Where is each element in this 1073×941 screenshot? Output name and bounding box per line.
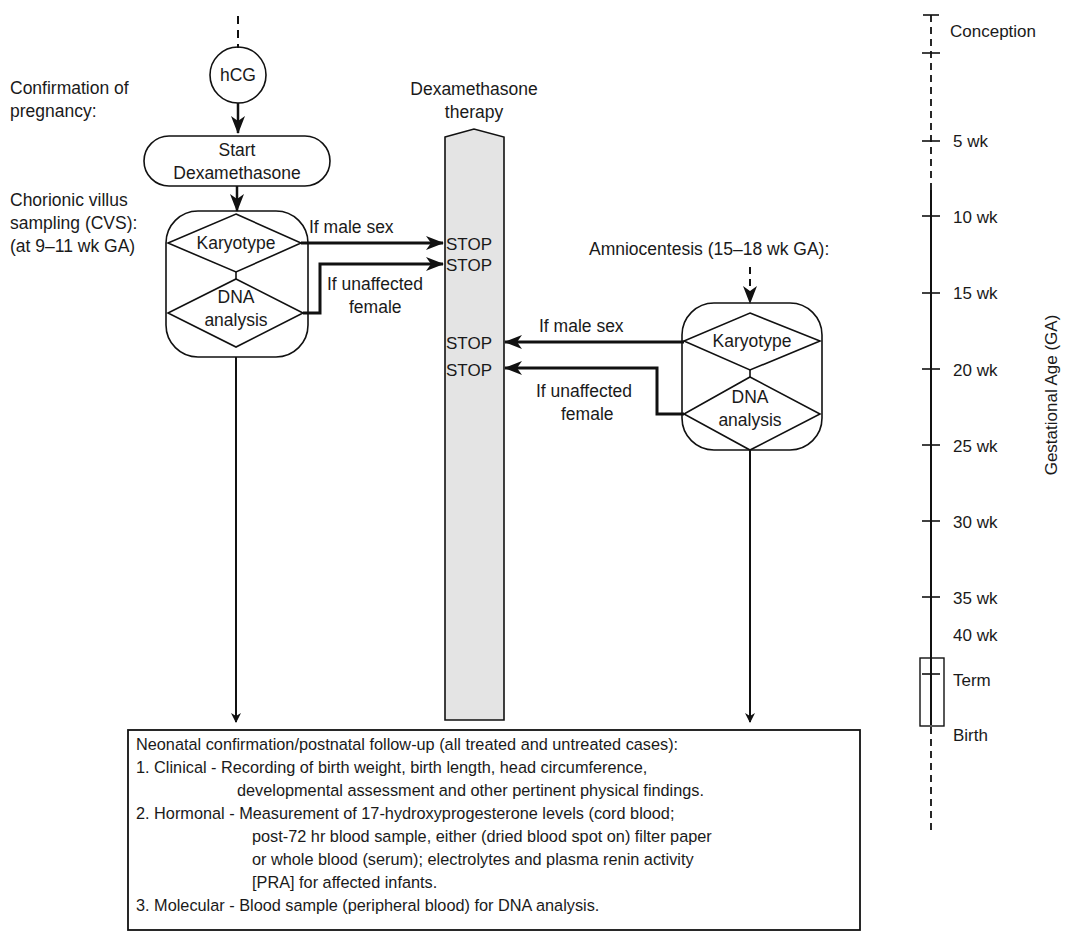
- followup-title: Neonatal confirmation/postnatal follow-u…: [136, 735, 678, 753]
- cvs-male-label: If male sex: [309, 217, 394, 237]
- svg-text:Dexamethasone: Dexamethasone: [173, 163, 300, 183]
- tick-conception: Conception: [950, 22, 1036, 41]
- svg-text:Start: Start: [219, 140, 256, 160]
- confirmation-label: Confirmation of pregnancy:: [10, 78, 129, 121]
- svg-text:Dexamethasone: Dexamethasone: [410, 79, 537, 99]
- tick-10wk: 10 wk: [953, 208, 998, 227]
- tick-birth: Birth: [953, 726, 988, 745]
- tick-5wk: 5 wk: [953, 132, 988, 151]
- svg-text:DNA: DNA: [218, 287, 255, 307]
- hcg-node: hCG: [210, 47, 266, 103]
- svg-text:therapy: therapy: [445, 102, 504, 122]
- tick-25wk: 25 wk: [953, 437, 998, 456]
- cvs-label: Chorionic villus sampling (CVS): (at 9–1…: [10, 190, 137, 256]
- stop-cvs-unaffected: STOP: [446, 256, 492, 275]
- hcg-label: hCG: [220, 65, 256, 85]
- svg-text:Chorionic villus: Chorionic villus: [10, 190, 128, 210]
- amnio-unaffected-label-2: female: [561, 404, 614, 424]
- svg-text:Karyotype: Karyotype: [713, 331, 792, 351]
- svg-text:or whole blood (serum); electr: or whole blood (serum); electrolytes and…: [252, 850, 694, 868]
- amnio-unaffected-label: If unaffected: [536, 381, 632, 401]
- axis-title: Gestational Age (GA): [1042, 315, 1061, 476]
- tick-40wk: 40 wk: [953, 626, 998, 645]
- svg-text:Confirmation of: Confirmation of: [10, 78, 129, 98]
- stop-amnio-male: STOP: [446, 334, 492, 353]
- gestational-age-timeline: Conception 5 wk 10 wk 15 wk 20 wk 25 wk …: [920, 15, 1061, 830]
- svg-text:sampling (CVS):: sampling (CVS):: [10, 213, 137, 233]
- svg-text:DNA: DNA: [732, 387, 769, 407]
- tick-35wk: 35 wk: [953, 589, 998, 608]
- cvs-test-group: Karyotype DNA analysis: [166, 211, 308, 357]
- cvs-unaffected-label-2: female: [349, 297, 402, 317]
- svg-text:developmental assessment and o: developmental assessment and other perti…: [237, 781, 704, 799]
- dexamethasone-therapy-bar: [445, 129, 504, 720]
- followup-item-hormonal: 2. Hormonal - Measurement of 17-hydroxyp…: [136, 804, 674, 822]
- amnio-male-label: If male sex: [539, 316, 624, 336]
- svg-text:pregnancy:: pregnancy:: [10, 101, 97, 121]
- start-dexamethasone-node: Start Dexamethasone: [144, 136, 330, 186]
- svg-text:[PRA] for affected infants.: [PRA] for affected infants.: [252, 873, 437, 891]
- svg-text:(at 9–11 wk GA): (at 9–11 wk GA): [10, 236, 135, 256]
- tick-15wk: 15 wk: [953, 284, 998, 303]
- svg-text:analysis: analysis: [204, 310, 267, 330]
- followup-item-clinical: 1. Clinical - Recording of birth weight,…: [136, 758, 647, 776]
- amnio-test-group: Karyotype DNA analysis: [682, 303, 822, 450]
- tick-30wk: 30 wk: [953, 513, 998, 532]
- svg-text:Karyotype: Karyotype: [197, 233, 276, 253]
- svg-text:post-72 hr blood sample, eithe: post-72 hr blood sample, either (dried b…: [252, 827, 712, 845]
- cvs-unaffected-label: If unaffected: [327, 274, 423, 294]
- stop-amnio-unaffected: STOP: [446, 361, 492, 380]
- tick-20wk: 20 wk: [953, 361, 998, 380]
- followup-item-molecular: 3. Molecular - Blood sample (peripheral …: [136, 896, 599, 914]
- followup-box: Neonatal confirmation/postnatal follow-u…: [128, 730, 860, 930]
- svg-text:analysis: analysis: [718, 410, 781, 430]
- cah-prenatal-treatment-diagram: hCG Confirmation of pregnancy: Start Dex…: [0, 0, 1073, 941]
- tick-term: Term: [953, 671, 991, 690]
- amniocentesis-label: Amniocentesis (15–18 wk GA):: [589, 239, 829, 259]
- stop-cvs-male: STOP: [446, 235, 492, 254]
- therapy-title: Dexamethasone therapy: [410, 79, 537, 122]
